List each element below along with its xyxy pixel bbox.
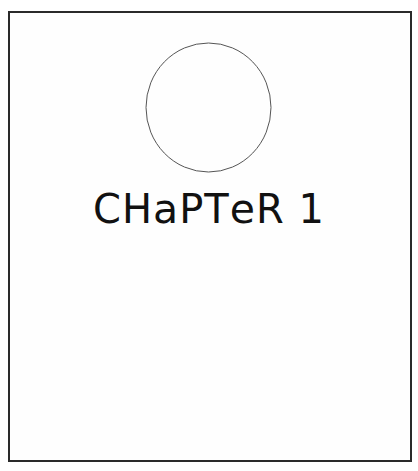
title-part: a (153, 185, 179, 233)
title-part: CH (93, 186, 153, 232)
title-part: e (230, 185, 256, 233)
chapter-title: CHaPTeR 1 (0, 189, 418, 230)
title-part: PT (179, 186, 230, 232)
circle-emblem-icon (145, 42, 272, 173)
title-part: R (256, 186, 285, 232)
title-part: 1 (285, 186, 325, 232)
